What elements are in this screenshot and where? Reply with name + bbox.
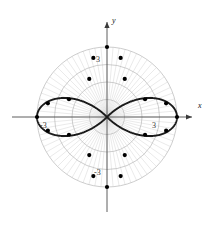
x-axis-label: x — [197, 101, 202, 110]
data-point-marker — [119, 56, 123, 60]
data-point-marker — [119, 174, 123, 178]
polar-plot-canvas: x y 3 -3 -3 3 — [0, 0, 216, 225]
data-point-marker — [35, 115, 39, 119]
data-point-marker — [143, 97, 147, 101]
x-positive-tick-label: 3 — [152, 121, 156, 130]
y-negative-tick-label: -3 — [94, 168, 101, 177]
y-axis-label: y — [111, 16, 116, 25]
data-point-marker — [91, 56, 95, 60]
y-axis-arrowhead-icon — [104, 22, 109, 28]
data-point-marker — [105, 45, 109, 49]
data-point-marker — [46, 101, 50, 105]
data-point-marker — [164, 101, 168, 105]
data-point-marker — [67, 97, 71, 101]
x-negative-tick-label: -3 — [40, 121, 47, 130]
data-point-marker — [87, 77, 91, 81]
data-point-marker — [164, 129, 168, 133]
x-axis-arrowhead-icon — [186, 114, 192, 119]
data-point-marker — [87, 153, 91, 157]
data-point-marker — [67, 133, 71, 137]
data-point-marker — [123, 153, 127, 157]
data-point-marker — [123, 77, 127, 81]
data-point-marker — [175, 115, 179, 119]
polar-rose-figure: x y 3 -3 -3 3 — [0, 0, 216, 225]
y-positive-tick-label: 3 — [96, 55, 100, 64]
data-point-marker — [143, 133, 147, 137]
data-point-marker — [105, 185, 109, 189]
